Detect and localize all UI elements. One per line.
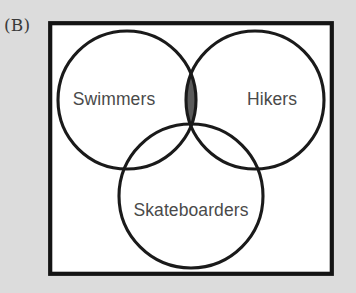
label-hikers: Hikers xyxy=(247,89,297,109)
label-skateboarders: Skateboarders xyxy=(133,200,248,220)
venn-diagram-frame: Swimmers Hikers Skateboarders xyxy=(48,21,334,276)
venn-diagram-svg: Swimmers Hikers Skateboarders xyxy=(48,21,334,276)
figure-root: (B) Swimmers Hikers Sk xyxy=(0,0,356,293)
label-swimmers: Swimmers xyxy=(73,89,156,109)
diagram-border xyxy=(50,23,332,274)
panel-label: (B) xyxy=(4,12,48,38)
